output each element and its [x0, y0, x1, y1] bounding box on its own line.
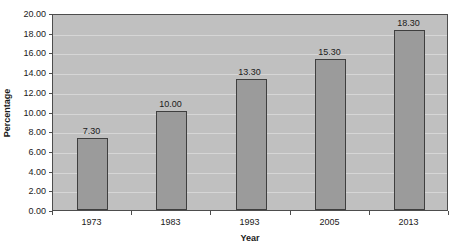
- x-axis-tick: [448, 211, 449, 215]
- bar-data-label: 13.30: [210, 67, 289, 77]
- y-tick-label: 16.00: [6, 48, 46, 58]
- x-tick-label: 1993: [210, 217, 289, 227]
- y-axis-tick: [49, 34, 52, 35]
- y-tick-label: 14.00: [6, 68, 46, 78]
- y-axis-tick: [49, 191, 52, 192]
- bar-1993: [236, 79, 267, 210]
- y-tick-label: 10.00: [6, 108, 46, 118]
- bar-2005: [315, 59, 346, 210]
- x-tick-label: 1983: [131, 217, 210, 227]
- y-tick-label: 18.00: [6, 29, 46, 39]
- x-axis-title: Year: [52, 233, 448, 243]
- bar-1983: [156, 111, 187, 210]
- x-axis-tick: [52, 211, 53, 215]
- y-axis-tick: [49, 152, 52, 153]
- y-gridline: [53, 54, 447, 55]
- x-axis-tick: [131, 211, 132, 215]
- x-axis-tick: [210, 211, 211, 215]
- y-tick-label: 12.00: [6, 88, 46, 98]
- y-axis-tick: [49, 93, 52, 94]
- x-tick-label: 2013: [369, 217, 448, 227]
- bar-1973: [77, 138, 108, 210]
- bar-data-label: 10.00: [131, 99, 210, 109]
- x-tick-label: 2005: [290, 217, 369, 227]
- y-tick-label: 0.00: [6, 206, 46, 216]
- y-tick-label: 8.00: [6, 127, 46, 137]
- bar-2013: [394, 30, 425, 210]
- bar-data-label: 15.30: [290, 47, 369, 57]
- y-axis-tick: [49, 14, 52, 15]
- bar-data-label: 18.30: [369, 18, 448, 28]
- y-axis-tick: [49, 172, 52, 173]
- y-tick-label: 4.00: [6, 167, 46, 177]
- x-tick-label: 1973: [52, 217, 131, 227]
- x-axis-tick: [290, 211, 291, 215]
- y-axis-tick: [49, 53, 52, 54]
- x-axis-tick: [369, 211, 370, 215]
- y-tick-label: 6.00: [6, 147, 46, 157]
- bar-chart: Percentage Year 0.002.004.006.008.0010.0…: [0, 0, 452, 249]
- plot-area: [52, 14, 448, 211]
- y-axis-tick: [49, 113, 52, 114]
- y-gridline: [53, 35, 447, 36]
- bar-data-label: 7.30: [52, 126, 131, 136]
- y-tick-label: 2.00: [6, 186, 46, 196]
- y-axis-tick: [49, 73, 52, 74]
- y-tick-label: 20.00: [6, 9, 46, 19]
